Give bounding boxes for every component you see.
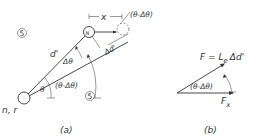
caption-a: (a) [60,125,73,135]
displaced-node-circle [117,23,129,35]
fx-label: Fx [221,96,231,109]
x-arrowhead-icon [113,31,117,34]
upper-node-label: N [86,30,90,36]
panel-a: N x (θ-Δθ) Δd' d' Δθ θ (θ-Δθ) [2,10,153,135]
fx-arrowhead-icon [229,91,234,95]
panel-b: (θ-Δθ) F = LeΔd' Fx (b) [177,52,244,135]
origin-label: n, r [2,105,18,115]
d-prime-label: d' [50,49,58,59]
theta-label: θ [40,85,45,94]
caption-b: (b) [204,125,217,135]
diagram-canvas: N x (θ-Δθ) Δd' d' Δθ θ (θ-Δθ) [0,0,277,140]
angle-label-b: (θ-Δθ) [190,82,213,91]
region-label-top: 5 [20,29,25,38]
force-label: F = LeΔd' [200,52,244,65]
x-label: x [100,12,107,22]
theta-minus-delta-label: (θ-Δθ) [55,81,78,90]
top-angle-label: (θ-Δθ) [130,10,153,19]
delta-theta-label: Δθ [62,57,73,66]
region-label-bottom: 5 [88,92,93,101]
